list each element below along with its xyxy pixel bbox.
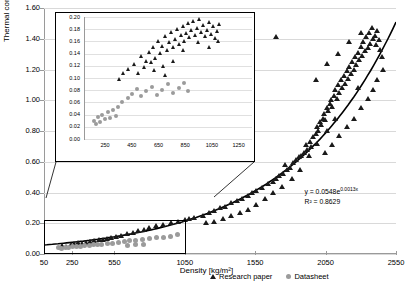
inset-y-tick-label: 0.16 [56,38,80,44]
inset-y-tick-label: 0.06 [56,99,80,105]
data-point [147,50,151,54]
data-point [160,44,164,48]
data-point [363,34,369,39]
data-point [130,92,134,96]
data-point [253,202,259,207]
data-point [334,96,340,101]
data-point [365,96,371,101]
data-point [297,167,303,172]
data-point [152,68,156,72]
inset-y-tick-label: 0.04 [56,111,80,117]
data-point [103,117,107,121]
inset-x-tick-label: 850 [171,142,199,148]
data-point [139,94,143,98]
inset-y-tick-label: 0.08 [56,87,80,93]
data-point [175,27,179,31]
legend-item-datasheet: Datasheet [286,272,328,281]
data-point [197,17,201,21]
inset-y-tick-label: 0.18 [56,26,80,32]
data-point [150,85,154,89]
data-point [353,62,359,67]
data-point [215,29,219,33]
data-point [177,42,181,46]
inset-y-tick-label: 0.02 [56,123,80,129]
data-point [144,89,148,93]
inset-gridline [85,17,252,18]
data-point [108,116,112,120]
y-tick-label: 0.60 [14,157,40,166]
triangle-marker-icon [210,274,216,279]
data-point [114,114,118,118]
data-point [329,142,335,147]
data-point [203,220,209,225]
zoom-region-box [44,220,186,254]
data-point [126,67,130,71]
legend-item-research-paper: Research paper [210,272,272,281]
data-point [216,39,220,43]
data-point [163,73,167,77]
data-point [142,65,146,69]
data-point [211,219,217,224]
data-point [365,45,371,50]
data-point [356,57,362,62]
trendline-annotation: y = 0.0548e0.0013x R² = 0.8629 [304,186,358,207]
data-point [120,100,124,104]
data-point [171,45,175,49]
data-point [339,85,345,90]
inset-y-tick-label: 0.00 [56,136,80,142]
inset-x-tick-label: 250 [91,142,119,148]
data-point [98,120,102,124]
data-point [313,77,319,82]
data-point [136,71,140,75]
data-point [169,30,173,34]
data-point [348,71,354,76]
data-point [351,116,357,121]
data-point [139,54,143,58]
data-point [187,35,191,39]
inset-x-tick-label: 450 [118,142,146,148]
y-tick-label: 1.00 [14,95,40,104]
data-point [100,113,104,117]
legend-label-datasheet: Datasheet [294,272,328,281]
data-point [324,61,330,66]
data-point [344,124,350,129]
data-point [318,122,324,127]
r-squared: R² = 0.8629 [304,197,358,207]
data-point [306,153,312,158]
inset-y-tick-label: 0.20 [56,14,80,20]
data-point [287,165,293,170]
data-point [228,213,234,218]
data-point [144,59,148,63]
data-point [324,128,330,133]
data-point [156,39,160,43]
data-point [166,82,170,86]
data-point [161,64,165,68]
data-point [379,54,385,59]
data-point [186,21,190,25]
data-point [329,104,335,109]
data-point [370,87,376,92]
trendline-equation: y = 0.0548e0.0013x [304,186,358,197]
data-point [332,116,338,121]
data-point [377,47,383,52]
data-point [289,176,295,181]
data-point [184,31,188,35]
inset-gridline [85,127,252,128]
data-point [191,215,197,220]
data-point [322,150,328,155]
data-point [106,110,110,114]
data-point [196,40,200,44]
inset-gridline [85,66,252,67]
data-point [358,30,364,35]
chart-legend: Research paper Datasheet [210,272,329,281]
data-point [116,105,120,109]
y-tick-label: 0.00 [14,249,40,258]
inset-y-tick-label: 0.12 [56,62,80,68]
y-tick-label: 1.40 [14,34,40,43]
x-tick-label: 550 [94,258,134,267]
data-point [280,171,286,176]
data-point [117,77,121,81]
data-point [173,37,177,41]
data-point [163,34,167,38]
gridline [44,254,396,255]
